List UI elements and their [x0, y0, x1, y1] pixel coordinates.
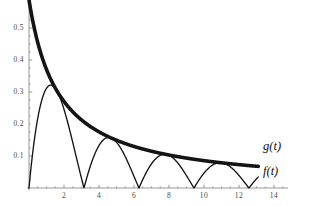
y-tick-label: 0.5 [0, 23, 24, 32]
x-tick-label: 6 [124, 191, 144, 200]
y-tick-label: 0.4 [0, 55, 24, 64]
plot-figure: 0.10.20.30.40.5 2468101214 g(t) f(t) [0, 0, 321, 206]
x-tick-label: 14 [264, 191, 284, 200]
y-tick-label: 0.3 [0, 87, 24, 96]
axes-group [27, 0, 288, 190]
x-tick-label: 12 [229, 191, 249, 200]
curve-label-g: g(t) [263, 139, 281, 154]
y-tick-label: 0.2 [0, 119, 24, 128]
y-axis-ticks [29, 4, 32, 180]
x-tick-label: 8 [159, 191, 179, 200]
x-tick-label: 4 [89, 191, 109, 200]
x-tick-label: 2 [54, 191, 74, 200]
y-tick-label: 0.1 [0, 151, 24, 160]
x-tick-label: 10 [194, 191, 214, 200]
curve-g-of-t [29, 0, 258, 166]
curve-label-f: f(t) [263, 164, 278, 179]
